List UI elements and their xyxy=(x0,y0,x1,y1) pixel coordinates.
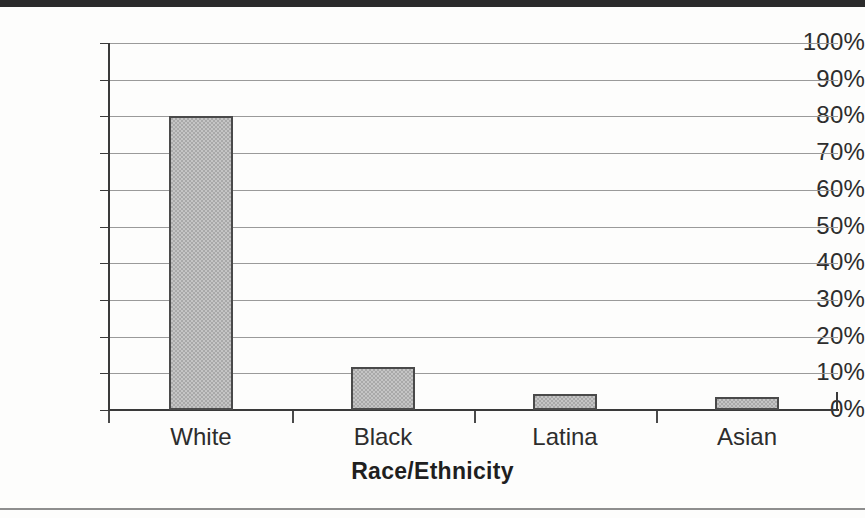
category-separator-tick xyxy=(292,411,294,423)
category-separator-tick xyxy=(656,411,658,423)
y-axis-line xyxy=(108,43,110,412)
category-label-latina: Latina xyxy=(474,424,656,450)
y-axis-tick-label: 90% xyxy=(773,67,865,91)
y-axis-tick-label: 100% xyxy=(773,30,865,54)
gridline xyxy=(110,80,838,81)
category-label-black: Black xyxy=(292,424,474,450)
y-axis-tick-label: 20% xyxy=(773,324,865,348)
scan-bottom-rule xyxy=(0,508,865,510)
bar xyxy=(715,397,779,410)
chart-page: 100%90%80%70%60%50%40%30%20%10%0% WhiteB… xyxy=(0,0,865,518)
bar xyxy=(351,367,415,410)
gridline xyxy=(110,43,838,44)
x-axis-right-end-tick xyxy=(836,392,838,411)
bar-chart: 100%90%80%70%60%50%40%30%20%10%0% WhiteB… xyxy=(0,0,865,518)
x-axis-origin-tick xyxy=(108,411,110,423)
category-separator-tick xyxy=(474,411,476,423)
bar xyxy=(169,116,233,410)
y-axis-tick-label: 30% xyxy=(773,287,865,311)
category-label-white: White xyxy=(110,424,292,450)
y-axis-tick-label: 50% xyxy=(773,214,865,238)
category-label-asian: Asian xyxy=(656,424,838,450)
y-axis-tick-label: 60% xyxy=(773,177,865,201)
bar xyxy=(533,394,597,410)
x-axis-title: Race/Ethnicity xyxy=(0,458,865,485)
